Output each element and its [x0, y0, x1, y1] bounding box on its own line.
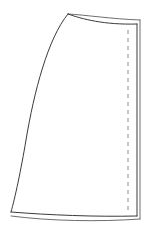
pattern-drawing-canvas	[0, 0, 154, 229]
pattern-figure	[0, 0, 154, 229]
